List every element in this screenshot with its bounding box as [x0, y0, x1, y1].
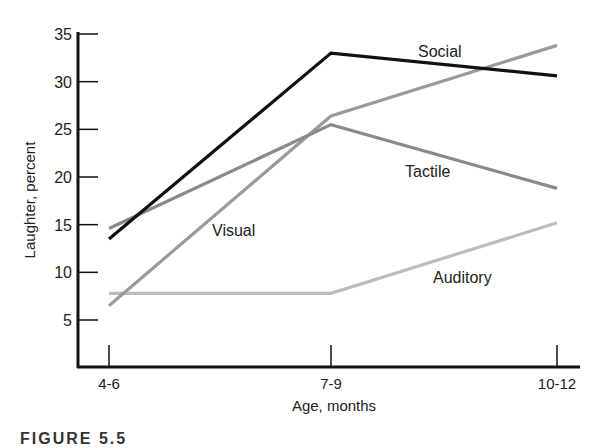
- y-tick-label: 15: [54, 217, 72, 234]
- figure-caption: FIGURE 5.5: [20, 430, 127, 448]
- y-tick-label: 35: [54, 26, 72, 43]
- y-axis-label: Laughter, percent: [21, 141, 38, 259]
- y-tick-label: 30: [54, 74, 72, 91]
- y-tick-label: 10: [54, 264, 72, 281]
- series-label-visual: Visual: [212, 222, 255, 239]
- y-tick-label: 5: [63, 312, 72, 329]
- x-axis-label: Age, months: [292, 397, 376, 414]
- x-tick-label: 7-9: [320, 375, 342, 392]
- y-axis-ticks: 5101520253035: [54, 26, 98, 329]
- x-tick-label: 4-6: [98, 375, 120, 392]
- y-tick-label: 20: [54, 169, 72, 186]
- x-tick-label: 10-12: [538, 375, 576, 392]
- chart-axes: [77, 32, 580, 368]
- chart-series: [109, 45, 557, 305]
- series-label-social: Social: [418, 43, 462, 60]
- series-line-social: [109, 53, 557, 239]
- y-tick-label: 25: [54, 121, 72, 138]
- series-label-auditory: Auditory: [433, 269, 492, 286]
- series-line-tactile: [109, 125, 557, 229]
- series-label-tactile: Tactile: [405, 163, 450, 180]
- series-line-visual: [109, 45, 557, 305]
